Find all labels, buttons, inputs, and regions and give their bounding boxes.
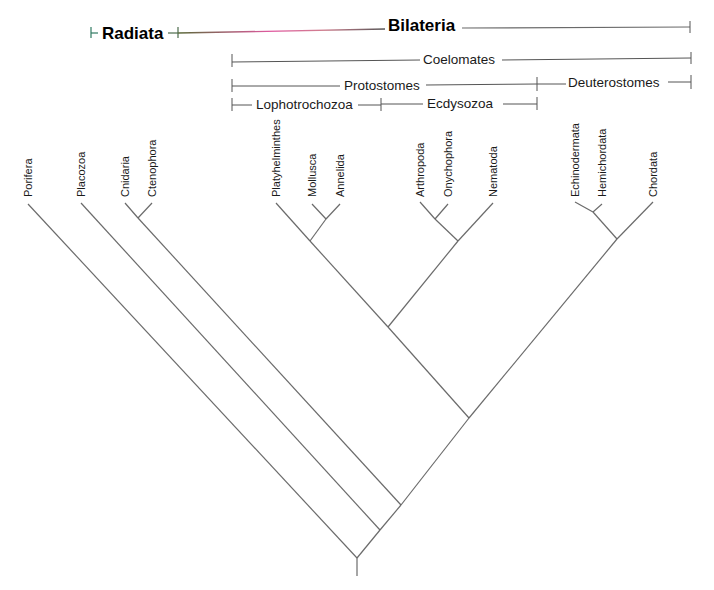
branch-ecdysozoa-stem <box>388 241 458 327</box>
phylogenetic-tree-diagram: Radiata Bilateria Coelomates Protostomes… <box>0 0 714 590</box>
taxon-label-placozoa: Placozoa <box>75 151 87 197</box>
taxon-label-annelida: Annelida <box>334 153 346 197</box>
taxon-label-chordata: Chordata <box>647 151 659 197</box>
radiata-bracket: Radiata <box>91 24 178 43</box>
bilateria-line-right <box>462 27 690 28</box>
branch-bilateria-stem <box>401 418 469 505</box>
taxon-label-nematoda: Nematoda <box>487 145 499 197</box>
branch-hemichordata <box>593 204 602 212</box>
taxon-label-ctenophora: Ctenophora <box>146 139 158 197</box>
branch-protostomes-stem <box>388 327 469 418</box>
ecdysozoa-bracket: Ecdysozoa <box>381 96 537 111</box>
taxon-label-arthropoda: Arthropoda <box>414 142 426 197</box>
lophotrochozoa-label: Lophotrochozoa <box>256 97 353 112</box>
taxon-label-onychophora: Onychophora <box>442 130 454 197</box>
coelomates-bracket: Coelomates <box>232 52 691 67</box>
branch-eumetazoa-stem <box>380 505 401 530</box>
protostomes-label: Protostomes <box>344 78 420 93</box>
bilateria-bracket: Bilateria <box>178 16 690 35</box>
branch-mollusca-annelida-stem <box>310 219 326 241</box>
branch-chordata <box>617 202 653 239</box>
branch-deuterostomes-stem <box>469 239 617 418</box>
coelomates-line-left <box>232 60 420 62</box>
branch-placozoa <box>81 203 380 530</box>
taxon-label-hemichordata: Hemichordata <box>596 128 608 197</box>
branch-cnidaria <box>125 203 138 218</box>
taxon-label-cnidaria: Cnidaria <box>119 155 131 197</box>
branch-placozoa-eumetazoa-stem <box>357 530 380 558</box>
coelomates-label: Coelomates <box>423 52 495 67</box>
tree-branches <box>28 202 653 576</box>
taxon-label-platyhelminthes: Platyhelminthes <box>270 119 282 197</box>
deuterostomes-bracket: Deuterostomes <box>537 75 691 90</box>
branch-annelida <box>326 204 340 219</box>
deuterostomes-label: Deuterostomes <box>568 75 660 90</box>
branch-cnidaria-ctenophora-stem <box>138 218 401 505</box>
taxon-label-porifera: Porifera <box>22 158 34 197</box>
branch-onychophora <box>435 204 448 219</box>
protostomes-line-right <box>426 84 537 85</box>
lophotrochozoa-bracket: Lophotrochozoa <box>232 97 381 112</box>
branch-platyhelminthes <box>276 203 310 241</box>
ecdysozoa-label: Ecdysozoa <box>427 96 494 111</box>
branch-arthropoda-onychophora-stem <box>435 219 458 241</box>
branch-lophotrochozoa-stem <box>310 241 388 327</box>
taxon-labels: PoriferaPlacozoaCnidariaCtenophoraPlatyh… <box>22 119 659 197</box>
taxon-label-mollusca: Mollusca <box>306 153 318 197</box>
branch-ctenophora <box>138 203 152 218</box>
bilateria-label: Bilateria <box>388 16 456 35</box>
taxon-label-echinodermata: Echinodermata <box>569 122 581 197</box>
bilateria-line-left <box>178 29 385 33</box>
branch-echinodermata <box>575 202 593 212</box>
branch-porifera <box>28 204 357 558</box>
branch-mollusca <box>312 204 326 219</box>
coelomates-line-right <box>502 58 691 60</box>
radiata-label: Radiata <box>102 24 164 43</box>
protostomes-bracket: Protostomes <box>232 77 537 93</box>
branch-nematoda <box>458 203 493 241</box>
branch-echinodermata-hemichordata-stem <box>593 212 617 239</box>
branch-arthropoda <box>420 202 435 219</box>
